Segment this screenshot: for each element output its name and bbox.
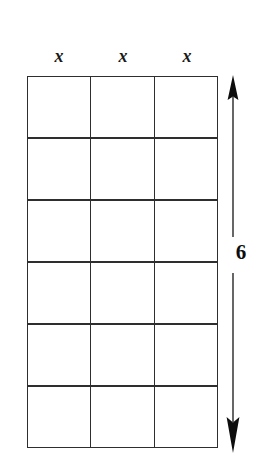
geometry-figure: x x x 6	[0, 0, 270, 467]
grid-rectangle	[27, 76, 218, 448]
dimension-arrow-drawing	[220, 70, 250, 460]
arrow-head-down-icon	[227, 417, 240, 453]
dimension-arrow-vertical	[220, 70, 250, 460]
column-label-1: x	[44, 45, 74, 67]
grid-drawing	[27, 76, 218, 448]
dimension-label-height: 6	[228, 240, 254, 264]
column-label-3: x	[172, 45, 202, 67]
column-label-2: x	[108, 45, 138, 67]
